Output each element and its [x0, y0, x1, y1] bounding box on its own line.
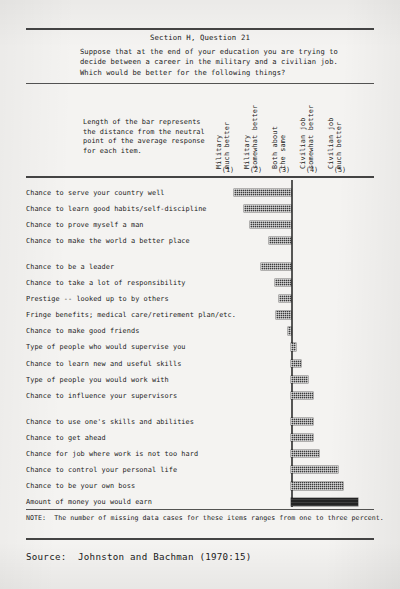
rule-bottom [26, 538, 374, 540]
column-header-number-5: (5) [327, 166, 353, 174]
column-header-4: Civilian job somewhat better [299, 105, 325, 169]
row-label: Amount of money you would earn [26, 498, 152, 507]
chart-row: Chance to make good friends [26, 327, 374, 336]
row-label: Chance for job where work is not too har… [26, 450, 198, 459]
row-label: Chance to use one's skills and abilities [26, 418, 194, 427]
bar [261, 263, 291, 270]
row-label: Chance to make good friends [26, 327, 139, 336]
bar [279, 295, 291, 302]
row-label: Prestige -- looked up to by others [26, 295, 169, 304]
chart-row: Chance for job where work is not too har… [26, 450, 374, 459]
row-label: Chance to make the world a better place [26, 237, 190, 246]
bar [244, 205, 291, 212]
row-label: Chance to control your personal life [26, 466, 177, 475]
column-header-number-4: (4) [299, 166, 325, 174]
row-label: Chance to be your own boss [26, 482, 135, 491]
section-title: Section H, Question 21 [0, 33, 400, 42]
question-text: Suppose that at the end of your educatio… [80, 47, 338, 78]
bar [291, 360, 301, 367]
chart-row: Type of people you would work with [26, 375, 374, 384]
column-header-number-1: (1) [215, 166, 241, 174]
chart-row: Chance to be your own boss [26, 482, 374, 491]
bar [291, 482, 343, 489]
chart-row: Chance to influence your supervisors [26, 391, 374, 400]
row-label: Chance to take a lot of responsibility [26, 279, 186, 288]
chart-row: Chance to learn good habits/self-discipl… [26, 204, 374, 213]
bar [234, 189, 291, 196]
bar [291, 498, 358, 505]
chart-row: Chance to use one's skills and abilities [26, 417, 374, 426]
chart-row: Chance to make the world a better place [26, 236, 374, 245]
bar [291, 418, 313, 425]
bar [291, 466, 338, 473]
figure-sheet: Section H, Question 21 Suppose that at t… [0, 0, 400, 589]
chart-row: Chance to get ahead [26, 433, 374, 442]
chart-row: Chance to prove myself a man [26, 220, 374, 229]
bar-chart-plot: Chance to serve your country wellChance … [26, 178, 374, 508]
bar [291, 392, 313, 399]
bar [288, 327, 291, 334]
bar-length-explanation: Length of the bar represents the distanc… [83, 118, 205, 156]
bar [291, 450, 319, 457]
chart-row: Amount of money you would earn [26, 498, 374, 507]
bar [250, 221, 291, 228]
footer-note: NOTE: The number of missing data cases f… [26, 514, 384, 522]
column-header-5: Civilian job much better [327, 105, 353, 169]
row-label: Chance to learn new and useful skills [26, 360, 181, 369]
column-header-number-3: (3) [271, 166, 297, 174]
chart-row: Chance to be a leader [26, 262, 374, 271]
row-label: Chance to learn good habits/self-discipl… [26, 205, 207, 214]
source-citation: Source: Johnston and Bachman (1970:15) [26, 551, 251, 562]
bar [269, 237, 291, 244]
rule-under-question [26, 83, 374, 84]
bar [291, 376, 308, 383]
chart-row: Chance to serve your country well [26, 188, 374, 197]
row-label: Chance to serve your country well [26, 189, 165, 198]
column-header-label-5: Civilian job much better [327, 107, 399, 169]
row-label: Type of people who would supervise you [26, 343, 186, 352]
row-label: Chance to prove myself a man [26, 221, 144, 230]
row-label: Chance to be a leader [26, 263, 114, 272]
chart-row: Chance to control your personal life [26, 466, 374, 475]
rule-above-note [26, 509, 374, 510]
row-label: Chance to get ahead [26, 434, 106, 443]
row-label: Chance to influence your supervisors [26, 392, 177, 401]
chart-row: Chance to take a lot of responsibility [26, 279, 374, 288]
row-label: Fringe benefits; medical care/retirement… [26, 311, 236, 320]
chart-row: Type of people who would supervise you [26, 343, 374, 352]
chart-row: Chance to learn new and useful skills [26, 359, 374, 368]
chart-row: Prestige -- looked up to by others [26, 295, 374, 304]
chart-row: Fringe benefits; medical care/retirement… [26, 311, 374, 320]
bar [291, 434, 313, 441]
column-header-3: Both about the same [271, 105, 297, 169]
column-header-2: Military somewhat better [243, 105, 269, 169]
bar [291, 343, 296, 350]
rule-top [26, 28, 374, 30]
column-header-number-2: (2) [243, 166, 269, 174]
column-header-1: Military much better [215, 105, 241, 169]
bar [276, 311, 291, 318]
bar [275, 279, 291, 286]
row-label: Type of people you would work with [26, 376, 169, 385]
